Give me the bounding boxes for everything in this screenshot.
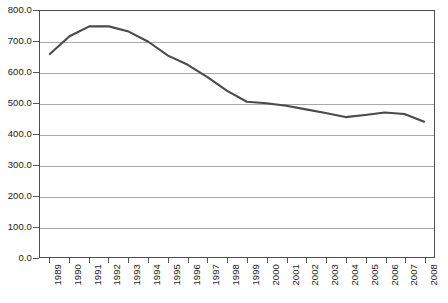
x-axis-tick-mark: [49, 258, 50, 263]
x-axis-labels: 1989199019911992199319941995199619971998…: [39, 264, 435, 303]
x-axis-tick-label: 1990: [73, 264, 83, 286]
x-axis-tick-label: 1999: [251, 264, 261, 286]
x-axis-tick-label: 1989: [53, 264, 63, 286]
y-axis-tick-label: 400.0: [8, 129, 32, 139]
y-axis-tick-label: 300.0: [8, 160, 32, 170]
plot-area: [39, 10, 435, 258]
x-axis-tick-label: 2006: [390, 264, 400, 286]
x-axis-tick-mark: [168, 258, 169, 263]
x-axis-tick-mark: [89, 258, 90, 263]
x-axis-tick-mark: [69, 258, 70, 263]
x-axis-tick-mark: [425, 258, 426, 263]
x-axis-tick-mark: [128, 258, 129, 263]
y-axis-tick-label: 800.0: [8, 5, 32, 15]
x-axis-tick-label: 1991: [93, 264, 103, 286]
x-axis-tick-label: 2008: [429, 264, 439, 286]
x-axis-tick-label: 2001: [291, 264, 301, 286]
x-axis-tick-label: 2003: [330, 264, 340, 286]
x-axis-tick-label: 2004: [350, 264, 360, 286]
x-axis-tick-label: 1998: [231, 264, 241, 286]
x-axis-tick-mark: [306, 258, 307, 263]
x-axis-tick-label: 1993: [132, 264, 142, 286]
y-axis-tick-label: 0.0: [18, 253, 32, 263]
y-axis-tick-label: 500.0: [8, 98, 32, 108]
y-axis-tick-label: 100.0: [8, 222, 32, 232]
x-axis-tick-label: 2007: [409, 264, 419, 286]
x-axis-tick-label: 1997: [211, 264, 221, 286]
x-axis-tick-mark: [247, 258, 248, 263]
x-axis-tick-label: 1992: [112, 264, 122, 286]
x-axis-tick-mark: [207, 258, 208, 263]
x-axis-tick-mark: [386, 258, 387, 263]
x-axis-tick-mark: [346, 258, 347, 263]
series-layer: [40, 11, 434, 257]
x-axis-tick-mark: [326, 258, 327, 263]
x-axis-tick-mark: [267, 258, 268, 263]
x-axis-tick-label: 1996: [192, 264, 202, 286]
x-axis-tick-mark: [227, 258, 228, 263]
series-line: [50, 26, 424, 121]
x-axis-tick-mark: [287, 258, 288, 263]
y-axis-tick-label: 200.0: [8, 191, 32, 201]
x-axis-tick-label: 2005: [370, 264, 380, 286]
x-axis-tick-mark: [108, 258, 109, 263]
x-axis-tick-mark: [366, 258, 367, 263]
x-axis-tick-label: 2002: [310, 264, 320, 286]
x-axis-tick-label: 2000: [271, 264, 281, 286]
line-chart: 800.0700.0600.0500.0400.0300.0200.0100.0…: [0, 0, 448, 303]
x-axis-tick-mark: [188, 258, 189, 263]
x-axis-tick-label: 1994: [152, 264, 162, 286]
x-axis-tick-label: 1995: [172, 264, 182, 286]
y-axis-labels: 800.0700.0600.0500.0400.0300.0200.0100.0…: [0, 0, 36, 303]
x-axis-tick-mark: [405, 258, 406, 263]
x-axis-tick-mark: [148, 258, 149, 263]
y-axis-tick-label: 600.0: [8, 67, 32, 77]
y-axis-tick-label: 700.0: [8, 36, 32, 46]
